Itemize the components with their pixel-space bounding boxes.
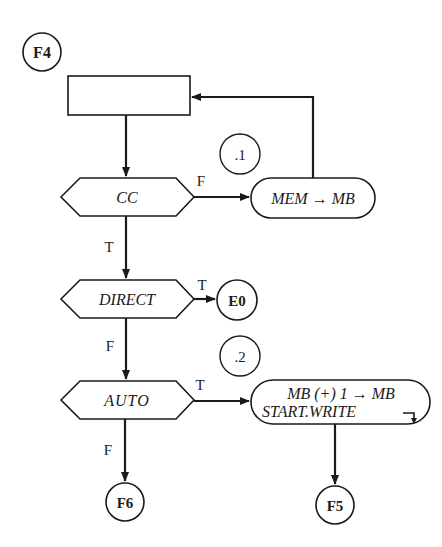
step-marker-2: .2 xyxy=(220,336,260,376)
action-increment-line1: MB (+) 1 → MB xyxy=(286,385,395,403)
action-increment-start-write: MB (+) 1 → MB START.WRITE xyxy=(251,380,430,424)
connector-e0: E0 xyxy=(217,280,257,320)
action-mem-to-mb: MEM → MB xyxy=(251,178,375,218)
connector-f4: F4 xyxy=(23,33,61,71)
action-mem-to-mb-label: MEM → MB xyxy=(270,190,355,207)
decision-direct-label: DIRECT xyxy=(98,291,156,308)
decision-auto-label: AUTO xyxy=(103,392,150,409)
step-marker-2-label: .2 xyxy=(234,349,245,365)
branch-label-cc-false: F xyxy=(197,173,205,189)
connector-f6-label: F6 xyxy=(117,495,134,511)
step-marker-1-label: .1 xyxy=(234,147,245,163)
branch-label-cc-true: T xyxy=(104,239,113,255)
branch-label-auto-false: F xyxy=(104,442,112,458)
action-increment-line2: START.WRITE xyxy=(262,403,356,420)
branch-label-direct-false: F xyxy=(106,338,114,354)
connector-f5-label: F5 xyxy=(327,498,344,514)
connector-f4-label: F4 xyxy=(33,44,51,61)
decision-direct: DIRECT xyxy=(61,280,194,318)
step-marker-1: .1 xyxy=(220,134,260,174)
branch-label-auto-true: T xyxy=(195,377,204,393)
connector-f5: F5 xyxy=(316,486,354,524)
branch-label-direct-true: T xyxy=(197,277,206,293)
decision-cc-label: CC xyxy=(116,189,138,206)
flowchart-canvas: F4 .1 CC F MEM → MB T DIRECT T E0 F xyxy=(0,0,442,547)
process-box xyxy=(68,76,190,115)
decision-auto: AUTO xyxy=(61,381,194,419)
connector-f6: F6 xyxy=(106,483,144,521)
connector-e0-label: E0 xyxy=(228,293,246,309)
decision-cc: CC xyxy=(61,178,194,216)
